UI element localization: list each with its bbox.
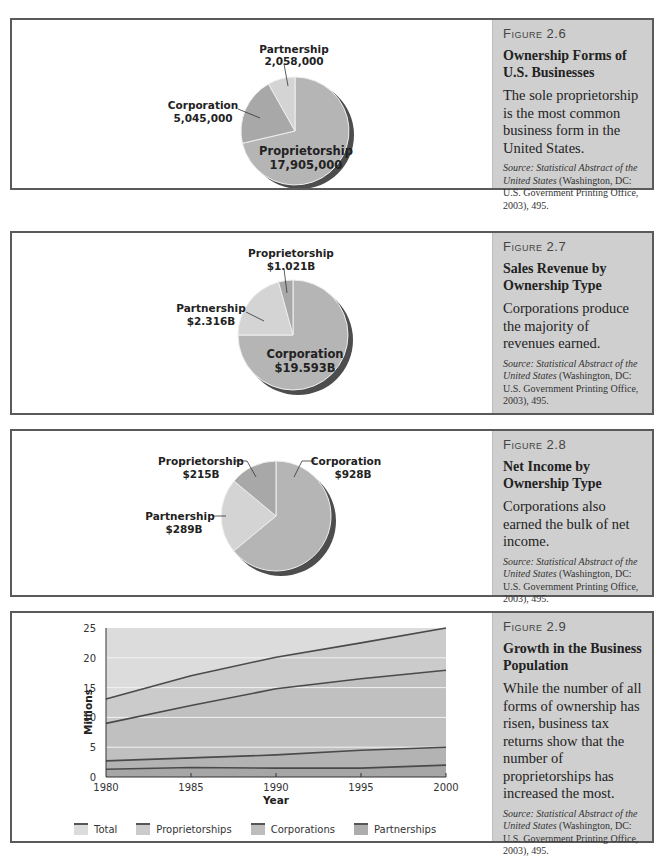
x-tick-label: 1990 <box>263 782 288 793</box>
value-proprietorship: $215B <box>182 468 219 480</box>
value-proprietorship: $1.021B <box>267 260 316 272</box>
figure-2-8-panel: Proprietorship $215B Corporation $928B P… <box>10 429 654 597</box>
value-partnership: $289B <box>165 523 202 535</box>
figure-title: Net Income by Ownership Type <box>503 458 644 492</box>
y-tick-label: 25 <box>83 623 96 634</box>
value-proprietorship: 17,905,000 <box>270 158 343 172</box>
legend-item-corporations: Corporations <box>251 823 335 835</box>
figure-caption-panel: Figure 2.8 Net Income by Ownership Type … <box>492 431 652 595</box>
swatch-icon <box>74 823 88 835</box>
value-corporation: $928B <box>334 468 371 480</box>
figure-title: Growth in the Business Population <box>503 640 644 674</box>
figure-number: Figure 2.6 <box>503 26 644 41</box>
figure-source: Source: Statistical Abstract of the Unit… <box>503 808 644 858</box>
x-tick-label: 1995 <box>348 782 373 793</box>
swatch-icon <box>354 823 368 835</box>
label-corporation: Corporation <box>311 455 381 467</box>
figure-2-6-panel: Partnership 2,058,000 Corporation 5,045,… <box>10 18 654 190</box>
label-partnership: Partnership <box>259 43 329 55</box>
value-partnership: $2.316B <box>187 315 236 327</box>
value-partnership: 2,058,000 <box>264 55 323 67</box>
x-tick-label: 2000 <box>433 782 458 793</box>
legend-item-proprietorships: Proprietorships <box>136 823 231 835</box>
figure-source: Source: Statistical Abstract of the Unit… <box>503 358 644 408</box>
business-growth-area-chart: 0 5 10 15 20 25 1980 1985 1990 1995 2000… <box>12 613 492 841</box>
figure-2-7-panel: Proprietorship $1.021B Partnership $2.31… <box>10 231 654 415</box>
label-proprietorship: Proprietorship <box>248 247 334 259</box>
figure-description: Corporations also earned the bulk of net… <box>503 498 644 551</box>
label-corporation: Corporation <box>168 99 238 111</box>
label-proprietorship: Proprietorship <box>158 455 244 467</box>
label-partnership: Partnership <box>176 302 246 314</box>
label-partnership: Partnership <box>145 510 215 522</box>
figure-caption-panel: Figure 2.6 Ownership Forms of U.S. Busin… <box>492 20 652 188</box>
chart-legend: Total Proprietorships Corporations Partn… <box>74 823 455 835</box>
x-tick-label: 1985 <box>178 782 203 793</box>
net-income-pie-chart: Proprietorship $215B Corporation $928B P… <box>12 431 492 595</box>
swatch-icon <box>251 823 265 835</box>
figure-source: Source: Statistical Abstract of the Unit… <box>503 162 644 212</box>
legend-item-partnerships: Partnerships <box>354 823 436 835</box>
x-tick-label: 1980 <box>93 782 118 793</box>
label-proprietorship: Proprietorship <box>259 144 353 158</box>
figure-number: Figure 2.7 <box>503 239 644 254</box>
figure-description: The sole proprietorship is the most comm… <box>503 87 644 157</box>
figure-description: While the number of all forms of ownersh… <box>503 680 644 803</box>
legend-label: Corporations <box>271 824 335 835</box>
label-corporation: Corporation <box>266 347 343 361</box>
value-corporation: $19.593B <box>274 361 335 375</box>
y-tick-label: 5 <box>90 742 96 753</box>
figure-number: Figure 2.9 <box>503 619 644 634</box>
legend-item-total: Total <box>74 823 117 835</box>
figure-caption-panel: Figure 2.9 Growth in the Business Popula… <box>492 613 652 841</box>
y-axis-title: Millions <box>82 689 94 735</box>
value-corporation: 5,045,000 <box>173 112 232 124</box>
y-tick-label: 20 <box>83 653 96 664</box>
x-axis-title: Year <box>262 794 290 806</box>
figure-title: Sales Revenue by Ownership Type <box>503 260 644 294</box>
figure-title: Ownership Forms of U.S. Businesses <box>503 47 644 81</box>
legend-label: Total <box>94 824 117 835</box>
ownership-forms-pie-chart: Partnership 2,058,000 Corporation 5,045,… <box>12 20 492 188</box>
legend-label: Partnerships <box>374 824 436 835</box>
figure-number: Figure 2.8 <box>503 437 644 452</box>
figure-source: Source: Statistical Abstract of the Unit… <box>503 556 644 606</box>
sales-revenue-pie-chart: Proprietorship $1.021B Partnership $2.31… <box>12 233 492 413</box>
legend-label: Proprietorships <box>156 824 231 835</box>
figure-2-9-panel: 0 5 10 15 20 25 1980 1985 1990 1995 2000… <box>10 611 654 843</box>
figure-description: Corporations produce the majority of rev… <box>503 300 644 353</box>
swatch-icon <box>136 823 150 835</box>
figure-caption-panel: Figure 2.7 Sales Revenue by Ownership Ty… <box>492 233 652 413</box>
